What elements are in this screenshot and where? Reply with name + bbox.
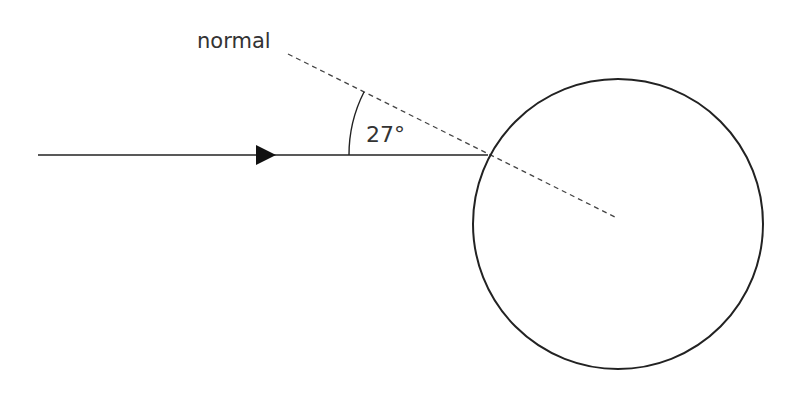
normal-line bbox=[288, 54, 617, 218]
normal-label: normal bbox=[197, 29, 271, 53]
sphere-circle bbox=[473, 79, 763, 369]
arrowhead-icon bbox=[256, 145, 276, 165]
angle-label: 27° bbox=[366, 122, 405, 147]
angle-arc bbox=[349, 92, 364, 155]
